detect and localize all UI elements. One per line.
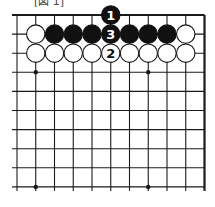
black-stone (120, 25, 138, 43)
star-point (146, 70, 150, 74)
black-stone (83, 25, 101, 43)
white-stone (27, 44, 45, 62)
star-point (146, 185, 150, 189)
white-stone (177, 44, 195, 62)
black-stone: 3 (102, 25, 120, 43)
black-stone (45, 25, 63, 43)
black-stone: 1 (102, 6, 120, 24)
white-stone: 2 (102, 44, 120, 62)
white-stone (120, 44, 138, 62)
black-stone (158, 25, 176, 43)
white-stone (45, 44, 63, 62)
move-number: 1 (106, 8, 115, 23)
move-number: 3 (106, 27, 115, 42)
white-stone (139, 44, 157, 62)
go-board: 132 (0, 0, 215, 207)
black-stone (139, 25, 157, 43)
white-stone (83, 44, 101, 62)
star-point (34, 70, 38, 74)
star-point (34, 185, 38, 189)
black-stone (64, 25, 82, 43)
white-stone (177, 25, 195, 43)
move-number: 2 (106, 46, 115, 61)
white-stone (27, 25, 45, 43)
white-stone (158, 44, 176, 62)
white-stone (64, 44, 82, 62)
